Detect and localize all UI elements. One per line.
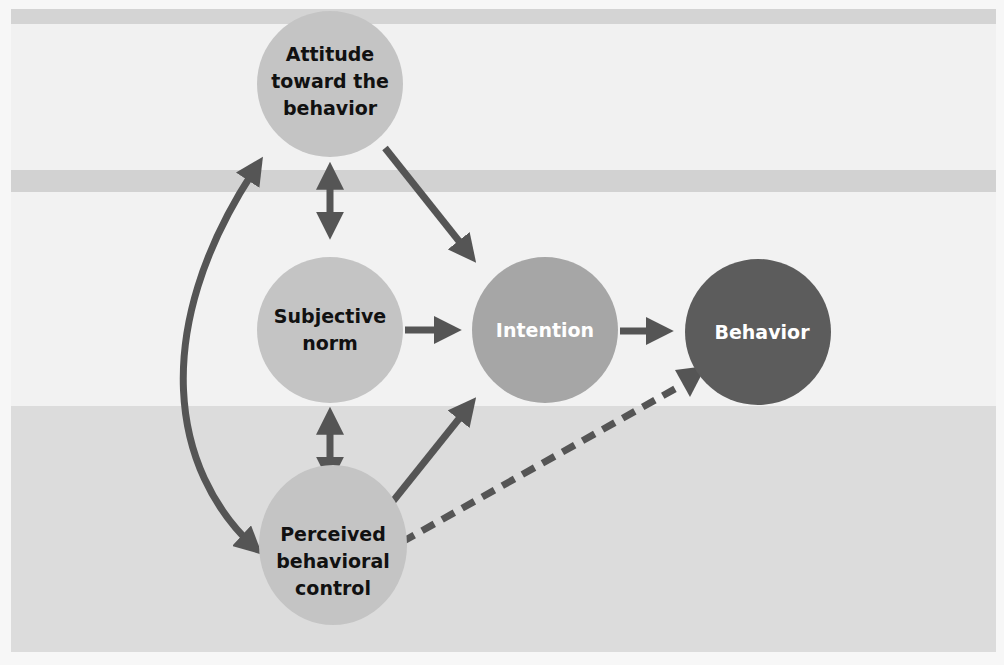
node-behavior: Behavior	[685, 259, 831, 405]
node-intention-label: Intention	[496, 319, 594, 341]
node-attitude-label-line-2: toward the	[271, 70, 389, 92]
node-subjective-norm: Subjective norm	[257, 257, 403, 403]
node-perceived-control-label-line-2: behavioral	[276, 550, 390, 572]
node-behavior-label: Behavior	[714, 321, 810, 343]
edge-perceived-control-intention	[386, 405, 470, 510]
node-attitude: Attitude toward the behavior	[257, 11, 403, 157]
node-subjective-norm-label-line-2: norm	[302, 332, 358, 354]
node-perceived-control-label-line-3: control	[295, 577, 371, 599]
edge-attitude-intention	[385, 148, 470, 255]
edge-attitude-perceived-control	[183, 172, 255, 548]
node-attitude-label-line-1: Attitude	[286, 43, 374, 65]
node-intention: Intention	[472, 257, 618, 403]
node-attitude-label-line-3: behavior	[283, 97, 378, 119]
node-subjective-norm-label-line-1: Subjective	[274, 305, 386, 327]
tpb-diagram: Attitude toward the behavior Subjective …	[0, 0, 1004, 665]
edge-perceived-control-behavior-dashed	[402, 386, 680, 542]
node-perceived-control: Perceived behavioral control	[259, 465, 407, 625]
node-perceived-control-label-line-1: Perceived	[280, 523, 386, 545]
